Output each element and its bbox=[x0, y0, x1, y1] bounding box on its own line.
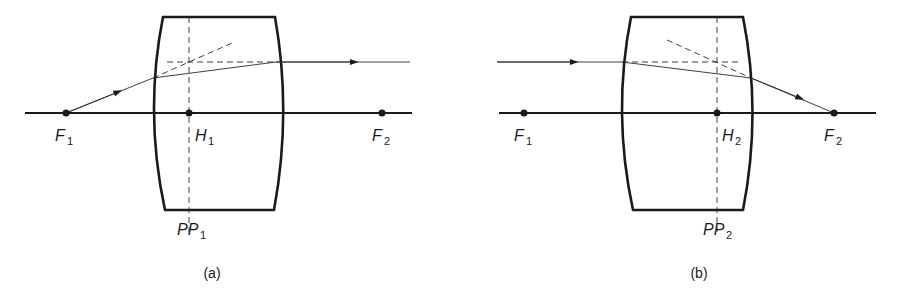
label-f2-a-sub: 2 bbox=[384, 135, 390, 147]
internal-ray-b bbox=[622, 62, 751, 78]
caption-b: (b) bbox=[690, 265, 707, 281]
label-h2-sub: 2 bbox=[735, 135, 741, 147]
label-f2-b: F bbox=[824, 127, 835, 144]
thick-lens-diagram: F 1 H 1 F 2 PP 1 (a) F 1 H 2 F 2 PP 2 bbox=[0, 0, 899, 298]
label-f2-b-sub: 2 bbox=[836, 135, 842, 147]
panel-b: F 1 H 2 F 2 PP 2 (b) bbox=[497, 17, 876, 281]
panel-a: F 1 H 1 F 2 PP 1 (a) bbox=[25, 17, 412, 281]
ray-arrow-b2 bbox=[751, 78, 800, 98]
focal-point-f1-a bbox=[63, 110, 70, 117]
label-f1-a: F bbox=[55, 127, 66, 144]
label-pp2-sub: 2 bbox=[726, 229, 732, 241]
ray-arrow-a1 bbox=[66, 92, 118, 113]
extension-exit-b bbox=[667, 40, 751, 78]
principal-point-h2 bbox=[714, 110, 721, 117]
label-h1-sub: 1 bbox=[208, 135, 214, 147]
label-h1: H bbox=[195, 127, 207, 144]
label-f2-a: F bbox=[372, 127, 383, 144]
label-pp1-sub: 1 bbox=[200, 229, 206, 241]
label-pp1: PP bbox=[177, 221, 199, 238]
label-f1-a-sub: 1 bbox=[67, 135, 73, 147]
principal-point-h1 bbox=[186, 110, 193, 117]
label-pp2: PP bbox=[703, 221, 725, 238]
focal-point-f2-b bbox=[831, 110, 838, 117]
label-h2: H bbox=[722, 127, 734, 144]
focal-point-f2-a bbox=[379, 110, 386, 117]
focal-point-f1-b bbox=[521, 110, 528, 117]
caption-a: (a) bbox=[203, 265, 220, 281]
label-f1-b: F bbox=[514, 127, 525, 144]
label-f1-b-sub: 1 bbox=[526, 135, 532, 147]
